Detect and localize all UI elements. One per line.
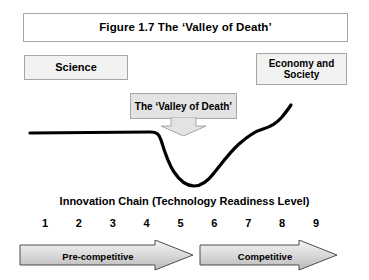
pre-competitive-label: Pre-competitive (28, 251, 168, 262)
valley-of-death-callout: The ‘Valley of Death’ (130, 93, 237, 136)
science-label: Science (55, 61, 97, 74)
valley-of-death-callout-body: The ‘Valley of Death’ (130, 93, 237, 119)
trl-level: 5 (174, 217, 188, 229)
valley-of-death-figure: Figure 1.7 The ‘Valley of Death’ Science… (0, 0, 369, 280)
valley-curve (0, 0, 369, 280)
trl-level: 4 (140, 217, 154, 229)
trl-scale: 1 2 3 4 5 6 7 8 9 (38, 217, 323, 229)
economy-and-society-box: Economy and Society (256, 53, 347, 85)
page-title: Figure 1.7 The ‘Valley of Death’ (99, 21, 272, 34)
trl-level: 9 (309, 217, 323, 229)
figure-title-box: Figure 1.7 The ‘Valley of Death’ (23, 13, 348, 42)
down-arrow-icon (130, 117, 237, 136)
trl-level: 3 (106, 217, 120, 229)
economy-label-line2: Society (284, 69, 320, 81)
economy-label-line1: Economy and (269, 58, 335, 70)
science-box: Science (24, 55, 128, 80)
trl-level: 2 (72, 217, 86, 229)
trl-level: 7 (241, 217, 255, 229)
innovation-chain-label: Innovation Chain (Technology Readiness L… (60, 195, 310, 207)
trl-level: 6 (207, 217, 221, 229)
trl-level: 1 (38, 217, 52, 229)
innovation-chain-title: Innovation Chain (Technology Readiness L… (0, 195, 369, 207)
valley-of-death-label: The ‘Valley of Death’ (135, 101, 232, 112)
trl-level: 8 (275, 217, 289, 229)
competitive-label: Competitive (210, 251, 320, 262)
